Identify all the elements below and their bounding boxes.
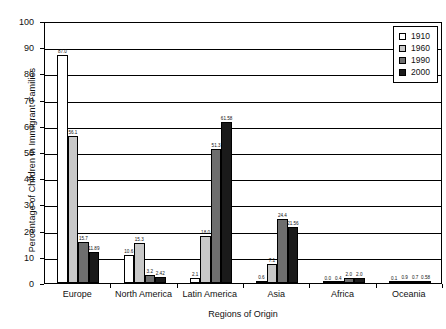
bar-value-label: 2.0 (356, 272, 362, 277)
bar[interactable] (333, 281, 344, 283)
gridline (45, 259, 441, 260)
legend-label: 1910 (411, 32, 430, 41)
bar[interactable] (256, 281, 267, 283)
legend-item-1960[interactable]: 1960 (399, 43, 430, 54)
bar[interactable] (68, 136, 79, 283)
bar-group: 10.615.33.22.42 (124, 23, 166, 283)
bar-group: 2.118.051.361.58 (190, 23, 232, 283)
y-tick-label: 30 (0, 200, 34, 210)
y-tick-label: 70 (0, 96, 34, 106)
gridline (45, 180, 441, 181)
x-tick-mark (243, 284, 244, 288)
bar-value-label: 15.3 (135, 237, 144, 242)
x-tick-mark (376, 284, 377, 288)
bar-value-label: 18.0 (201, 230, 210, 235)
bar-value-label: 3.2 (147, 269, 153, 274)
bar[interactable] (145, 275, 156, 283)
bar-value-label: 61.58 (221, 116, 233, 121)
y-tick-label: 100 (0, 17, 34, 27)
bar[interactable] (57, 55, 68, 283)
x-tick-label-africa: Africa (331, 289, 354, 299)
gridline (45, 75, 441, 76)
y-tick-label: 90 (0, 43, 34, 53)
x-tick-mark (309, 284, 310, 288)
y-tick-label: 0 (0, 279, 34, 289)
bar[interactable] (420, 281, 431, 283)
legend-item-2000[interactable]: 2000 (399, 67, 430, 78)
bar-value-label: 21.56 (287, 221, 299, 226)
y-tick-label: 20 (0, 227, 34, 237)
gridline (45, 206, 441, 207)
bar[interactable] (134, 243, 145, 283)
bar[interactable] (389, 281, 400, 283)
bar-value-label: 0.1 (391, 276, 397, 281)
y-tick-label: 80 (0, 69, 34, 79)
y-tick-mark (40, 284, 44, 285)
plot-area: 87.056.115.711.8910.615.33.22.422.118.05… (44, 22, 442, 284)
gridline (45, 233, 441, 234)
legend-label: 2000 (411, 68, 430, 77)
bar-value-label: 0.7 (412, 275, 418, 280)
bar-value-label: 0.58 (421, 275, 430, 280)
gridline (45, 102, 441, 103)
bar-value-label: 11.89 (88, 246, 99, 251)
bar[interactable] (277, 219, 288, 283)
bar-group: 87.056.115.711.89 (57, 23, 99, 283)
bar[interactable] (124, 255, 135, 283)
x-tick-label-asia: Asia (267, 289, 285, 299)
bar-value-label: 10.6 (124, 249, 133, 254)
x-tick-label-north-america: North America (115, 289, 172, 299)
bar-chart: Percentage of Children in Immigrant Fami… (0, 0, 446, 329)
bar[interactable] (221, 122, 232, 283)
bar[interactable] (78, 242, 89, 283)
gridline (45, 128, 441, 129)
bar-group: 0.00.42.02.0 (323, 23, 365, 283)
bar-value-label: 0.9 (401, 275, 407, 280)
bar-value-label: 51.3 (212, 143, 221, 148)
gridline (45, 154, 441, 155)
x-axis-title: Regions of Origin (44, 309, 442, 319)
legend: 1910196019902000 (393, 26, 438, 83)
bar[interactable] (288, 227, 299, 283)
y-tick-label: 60 (0, 122, 34, 132)
legend-label: 1960 (411, 44, 430, 53)
bar[interactable] (200, 236, 211, 283)
bar[interactable] (190, 278, 201, 284)
legend-swatch-icon (399, 57, 406, 64)
x-tick-label-latin-america: Latin America (183, 289, 238, 299)
bar-value-label: 2.1 (192, 272, 198, 277)
bar-value-label: 2.0 (346, 272, 352, 277)
legend-label: 1990 (411, 56, 430, 65)
bar-value-label: 7.1 (269, 258, 275, 263)
x-tick-label-oceania: Oceania (392, 289, 426, 299)
bar[interactable] (344, 278, 355, 283)
bar[interactable] (211, 149, 222, 283)
bar-group: 0.67.124.421.56 (256, 23, 298, 283)
bar-value-label: 87.0 (58, 49, 67, 54)
bar-value-label: 2.42 (156, 271, 165, 276)
legend-item-1990[interactable]: 1990 (399, 55, 430, 66)
x-tick-label-europe: Europe (63, 289, 92, 299)
legend-swatch-icon (399, 33, 406, 40)
y-tick-label: 50 (0, 148, 34, 158)
bar[interactable] (89, 252, 100, 283)
bar-value-label: 15.7 (79, 236, 88, 241)
bar-value-label: 0.6 (258, 275, 264, 280)
x-tick-mark (177, 284, 178, 288)
bar[interactable] (155, 277, 166, 283)
y-tick-label: 10 (0, 253, 34, 263)
bar-value-label: 24.4 (278, 213, 287, 218)
bar[interactable] (323, 281, 334, 283)
bar-value-label: 0.4 (335, 276, 341, 281)
legend-swatch-icon (399, 45, 406, 52)
bar[interactable] (267, 264, 278, 283)
legend-item-1910[interactable]: 1910 (399, 31, 430, 42)
bar[interactable] (399, 281, 410, 283)
bar-value-label: 56.1 (68, 130, 77, 135)
bar[interactable] (354, 278, 365, 283)
legend-swatch-icon (399, 69, 406, 76)
bar[interactable] (410, 281, 421, 283)
gridline (45, 49, 441, 50)
y-tick-label: 40 (0, 174, 34, 184)
x-tick-mark (442, 284, 443, 288)
